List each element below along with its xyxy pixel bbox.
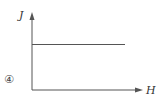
x-axis-label: H (146, 85, 156, 96)
x-axis-arrow-icon (135, 88, 143, 93)
j-vs-h-plot (0, 0, 159, 98)
y-axis-label: J (19, 10, 23, 21)
y-axis-arrow-icon (30, 12, 35, 20)
panel-label: ④ (4, 74, 14, 85)
